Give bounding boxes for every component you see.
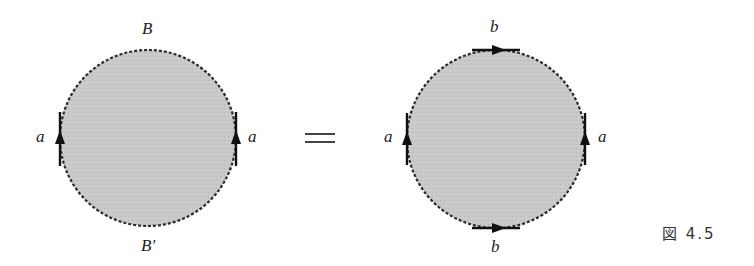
figure-caption: 図 4.5: [662, 222, 716, 243]
left-left-label: a: [36, 128, 45, 145]
left-bottom-label: B′: [141, 237, 155, 254]
left-top-label: B: [142, 20, 152, 37]
diagram-canvas: [0, 0, 754, 266]
right-bottom-label: b: [491, 238, 500, 255]
left-right-label: a: [248, 128, 257, 145]
right-disc: [402, 45, 590, 233]
right-right-label: a: [598, 128, 607, 145]
equals-sign: [305, 131, 335, 143]
left-disc: [55, 50, 241, 226]
right-left-label: a: [384, 128, 393, 145]
right-top-label: b: [490, 18, 499, 35]
